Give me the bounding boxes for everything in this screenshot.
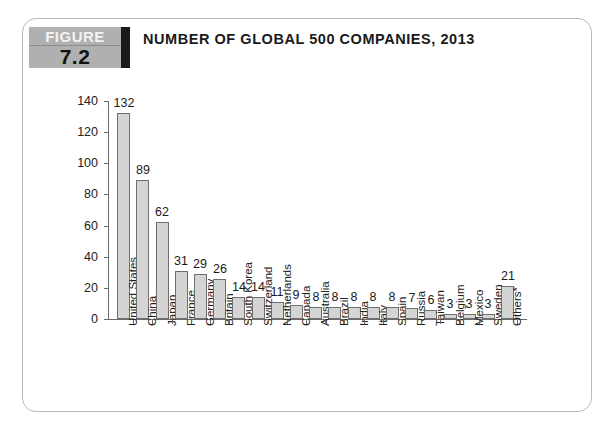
x-tick-mark: [210, 320, 211, 324]
bar-value-label: 132: [108, 97, 140, 110]
x-tick-mark: [364, 320, 365, 324]
bar-value-label: 21: [492, 270, 524, 283]
y-tick-mark: [104, 288, 108, 289]
x-tick-mark: [383, 320, 384, 324]
x-tick-mark: [229, 320, 230, 324]
x-tick-mark: [402, 320, 403, 324]
y-tick-label: 120: [64, 126, 98, 138]
x-tick-mark: [287, 320, 288, 324]
x-tick-mark: [248, 320, 249, 324]
bar-value-label: 62: [146, 206, 178, 219]
y-tick-mark: [104, 132, 108, 133]
x-tick-mark: [479, 320, 480, 324]
y-tick-mark: [104, 226, 108, 227]
y-tick-label: 40: [64, 251, 98, 263]
x-tick-mark: [421, 320, 422, 324]
x-tick-mark: [152, 320, 153, 324]
bar-value-label: 89: [127, 164, 159, 177]
x-tick-mark: [517, 320, 518, 324]
bar-chart: 020406080100120140132United States89Chin…: [23, 19, 593, 413]
x-tick-mark: [460, 320, 461, 324]
y-tick-label: 140: [64, 95, 98, 107]
y-tick-label: 100: [64, 157, 98, 169]
y-tick-mark: [104, 257, 108, 258]
x-tick-mark: [133, 320, 134, 324]
x-tick-mark: [344, 320, 345, 324]
y-tick-label: 20: [64, 282, 98, 294]
y-tick-mark: [104, 319, 108, 320]
x-tick-mark: [440, 320, 441, 324]
figure-card: FIGURE 7.2 NUMBER OF GLOBAL 500 COMPANIE…: [22, 18, 592, 412]
x-tick-mark: [191, 320, 192, 324]
x-tick-mark: [306, 320, 307, 324]
bar-value-label: 26: [204, 263, 236, 276]
x-tick-mark: [172, 320, 173, 324]
y-tick-label: 60: [64, 220, 98, 232]
y-tick-label: 80: [64, 188, 98, 200]
x-tick-mark: [325, 320, 326, 324]
y-tick-mark: [104, 194, 108, 195]
screenshot-root: FIGURE 7.2 NUMBER OF GLOBAL 500 COMPANIE…: [0, 0, 611, 428]
y-axis-line: [108, 101, 109, 320]
y-tick-mark: [104, 163, 108, 164]
x-tick-mark: [498, 320, 499, 324]
x-tick-mark: [268, 320, 269, 324]
y-tick-label: 0: [64, 313, 98, 325]
